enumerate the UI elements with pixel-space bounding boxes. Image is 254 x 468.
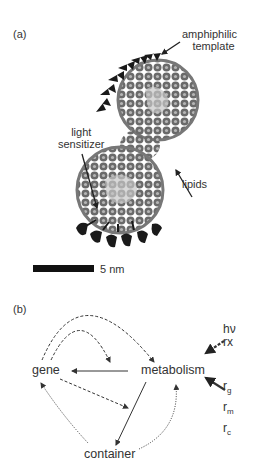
figure-graphics	[0, 0, 254, 468]
panel-b-label: (b)	[13, 303, 26, 315]
r-c-label: rc	[223, 420, 234, 441]
resource-inputs-label: rg rm rc	[223, 378, 234, 441]
sensitizer-label-line2: sensitizer	[58, 138, 104, 150]
r-m-label: rm	[223, 399, 234, 420]
template-label-line2: template	[182, 40, 237, 52]
amphiphilic-template-label: amphiphilic template	[182, 28, 237, 52]
rx-label: rx	[223, 336, 236, 349]
template-label-line1: amphiphilic	[182, 28, 237, 40]
scale-bar	[33, 265, 94, 272]
template-pointer	[162, 42, 180, 54]
node-metabolism: metabolism	[141, 363, 205, 377]
r-g-label: rg	[223, 378, 234, 399]
panel-a-label: (a)	[13, 28, 26, 40]
upper-micelle	[118, 60, 198, 140]
sensitizer-label-line1: light	[58, 126, 104, 138]
diagram-edges	[41, 315, 225, 449]
scale-bar-label: 5 nm	[100, 263, 124, 275]
node-container: container	[84, 447, 135, 461]
light-sensitizer-label: light sensitizer	[58, 126, 104, 150]
lipids-label: lipids	[182, 178, 207, 190]
lower-micelle	[77, 147, 163, 233]
energy-input-label: hν rx	[223, 323, 236, 349]
node-gene: gene	[32, 363, 60, 377]
